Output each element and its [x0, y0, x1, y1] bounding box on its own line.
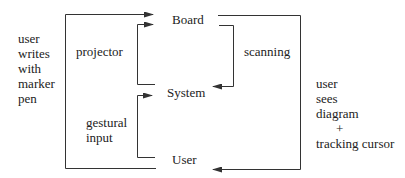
annotation-left-line-3: with: [18, 61, 55, 76]
edge-label-gestural-input: gestural input: [86, 115, 127, 145]
node-system: System: [167, 85, 205, 100]
annotation-right-line-4: +: [316, 121, 394, 136]
annotation-right-line-1: user: [316, 76, 394, 91]
gestural-input-line-1: gestural: [86, 115, 127, 130]
annotation-right-line-3: diagram: [316, 106, 394, 121]
gestural-input-line-2: input: [86, 130, 127, 145]
node-board: Board: [172, 12, 204, 27]
outer-left-arrow: [66, 15, 157, 169]
annotation-left: user writes with marker pen: [18, 31, 55, 106]
gestural-input-arrow: [138, 96, 156, 158]
outer-right-arrow: [213, 16, 301, 170]
annotation-left-line-5: pen: [18, 91, 55, 106]
projector-arrow: [138, 25, 156, 85]
annotation-right: user sees diagram + tracking cursor: [316, 76, 394, 151]
annotation-left-line-4: marker: [18, 76, 55, 91]
scanning-arrow: [213, 26, 234, 87]
annotation-left-line-1: user: [18, 31, 55, 46]
edge-label-scanning: scanning: [244, 44, 290, 59]
annotation-left-line-2: writes: [18, 46, 55, 61]
edge-label-projector: projector: [76, 44, 123, 59]
node-user: User: [172, 152, 197, 167]
annotation-right-line-2: sees: [316, 91, 394, 106]
annotation-right-line-5: tracking cursor: [316, 136, 394, 151]
